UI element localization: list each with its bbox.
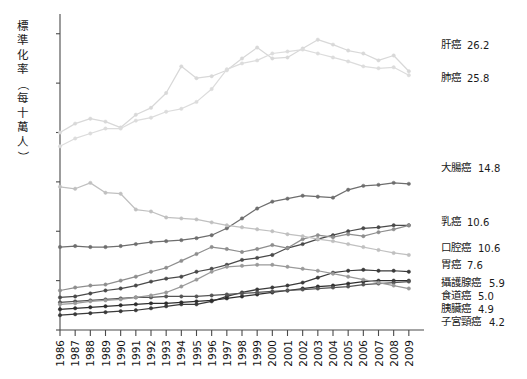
data-point: [58, 245, 61, 248]
legend-value: 25.8: [467, 73, 489, 84]
x-tick-label: 2008: [388, 340, 400, 367]
x-tick-label: 2009: [403, 340, 415, 367]
data-point: [164, 239, 167, 242]
x-tick-label: 1987: [69, 340, 81, 367]
data-point: [346, 269, 349, 272]
series-line: [60, 225, 409, 290]
series-1: [58, 48, 410, 148]
data-point: [73, 302, 76, 305]
data-point: [362, 283, 365, 286]
data-point: [164, 291, 167, 294]
x-tick-label: 1988: [84, 340, 96, 367]
data-point: [286, 233, 289, 236]
legend-item: 肺癌25.8: [441, 71, 489, 84]
data-point: [271, 243, 274, 246]
data-point: [392, 224, 395, 227]
series-line: [60, 40, 409, 133]
data-point: [255, 247, 258, 250]
data-point: [104, 289, 107, 292]
data-point: [134, 284, 137, 287]
legend-label: 胃癌: [441, 258, 462, 270]
data-point: [377, 59, 380, 62]
data-point: [225, 247, 228, 250]
data-point: [392, 54, 395, 57]
series-5: [58, 181, 410, 256]
data-point: [73, 307, 76, 310]
x-tick-label: 2007: [373, 340, 385, 367]
data-point: [89, 284, 92, 287]
data-point: [286, 197, 289, 200]
data-point: [195, 270, 198, 273]
data-point: [119, 287, 122, 290]
data-point: [180, 107, 183, 110]
data-point: [164, 91, 167, 94]
data-point: [134, 309, 137, 312]
data-point: [149, 270, 152, 273]
data-point: [392, 251, 395, 254]
data-point: [73, 295, 76, 298]
data-point: [134, 208, 137, 211]
data-point: [195, 278, 198, 281]
data-point: [210, 234, 213, 237]
data-point: [346, 285, 349, 288]
chart-canvas: 標準化率（每十萬人） 19861987198819891990199119921…: [0, 0, 527, 379]
data-point: [286, 284, 289, 287]
data-point: [392, 66, 395, 69]
data-point: [240, 62, 243, 65]
legend-label: 乳癌: [441, 215, 462, 227]
data-point: [271, 230, 274, 233]
data-point: [286, 246, 289, 249]
series-line: [60, 225, 409, 297]
y-axis-label-char: 標: [17, 19, 29, 33]
data-point: [89, 292, 92, 295]
data-point: [255, 207, 258, 210]
cancer-rate-line-chart: 標準化率（每十萬人） 19861987198819891990199119921…: [0, 0, 527, 379]
data-point: [377, 231, 380, 234]
data-point: [301, 242, 304, 245]
series-6: [58, 268, 410, 317]
data-point: [149, 240, 152, 243]
data-point: [104, 191, 107, 194]
data-point: [407, 182, 410, 185]
data-point: [134, 296, 137, 299]
data-point: [271, 263, 274, 266]
legend-label: 口腔癌: [441, 241, 472, 253]
data-point: [331, 239, 334, 242]
legend-value: 7.6: [467, 260, 483, 271]
legend-label: 食道癌: [441, 289, 472, 301]
legend-value: 5.9: [489, 278, 505, 289]
data-point: [362, 227, 365, 230]
legend-label: 攝護腺癌: [441, 276, 482, 288]
data-point: [149, 307, 152, 310]
data-point: [134, 303, 137, 306]
data-point: [286, 56, 289, 59]
series-0: [58, 38, 410, 134]
x-tick-label: 1995: [191, 340, 203, 367]
data-point: [210, 270, 213, 273]
legend-label: 子宮頸癌: [441, 315, 482, 327]
data-point: [331, 235, 334, 238]
data-point: [346, 233, 349, 236]
data-point: [89, 312, 92, 315]
data-point: [301, 234, 304, 237]
legend-item: 子宮頸癌4.2: [441, 315, 505, 328]
data-point: [331, 43, 334, 46]
series-layer: [58, 38, 410, 317]
data-point: [180, 238, 183, 241]
legend-item: 口腔癌10.6: [441, 241, 500, 254]
data-point: [255, 256, 258, 259]
data-point: [210, 245, 213, 248]
data-point: [301, 267, 304, 270]
y-axis-label-char: 率: [17, 62, 28, 76]
data-point: [255, 263, 258, 266]
x-tick-label: 2000: [266, 340, 278, 367]
legend-value: 14.8: [478, 163, 500, 174]
data-point: [240, 226, 243, 229]
series-line: [60, 183, 409, 247]
data-point: [180, 275, 183, 278]
legend-label: 肺癌: [441, 71, 462, 83]
data-point: [58, 303, 61, 306]
data-point: [149, 294, 152, 297]
series-2: [58, 181, 410, 249]
data-point: [58, 313, 61, 316]
